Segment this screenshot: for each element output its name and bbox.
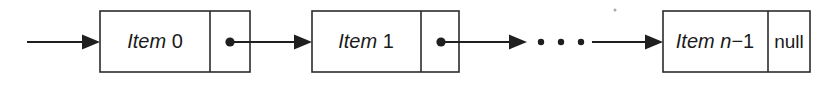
node-n-label-upright: −1 — [731, 30, 754, 52]
node-n-label-italic: Item n — [676, 30, 732, 52]
arrow-node0-to-node1-tip — [294, 35, 312, 50]
node-0-label-italic: Item — [127, 30, 166, 52]
list-node-item-n-minus-1: Item n−1 null — [663, 11, 810, 72]
ellipsis-dot-1 — [538, 39, 544, 45]
ellipsis-dot-3 — [578, 39, 584, 45]
arrow-ellipsis-to-noden-tip — [645, 35, 663, 50]
scan-speck-icon — [614, 9, 617, 12]
node-n-label: Item n−1 — [676, 30, 754, 52]
arrow-node1-to-ellipsis-tip — [509, 35, 527, 50]
node-0-label: Item 0 — [127, 30, 183, 52]
linked-list-diagram: Item 0 Item 1 — [0, 0, 833, 87]
diagram-canvas: Item 0 Item 1 — [0, 0, 833, 87]
ellipsis-dot-2 — [558, 39, 564, 45]
ellipsis-dots — [538, 39, 584, 45]
node-1-label-upright: 1 — [377, 30, 394, 52]
arrow-ellipsis-to-noden — [592, 35, 663, 50]
head-arrow — [27, 35, 100, 50]
node-1-label: Item 1 — [338, 30, 394, 52]
node-0-label-upright: 0 — [166, 30, 183, 52]
list-node-item-0: Item 0 — [100, 11, 250, 72]
list-node-item-1: Item 1 — [312, 11, 459, 72]
head-arrow-tip — [82, 35, 100, 50]
node-1-label-italic: Item — [338, 30, 377, 52]
node-n-null-label: null — [774, 31, 804, 52]
